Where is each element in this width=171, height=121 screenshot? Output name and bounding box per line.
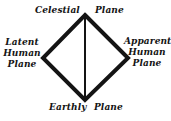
label-apparent-line-3: Plane [124,58,170,69]
label-apparent-line-2: Human [124,47,170,58]
diagram-canvas: Celestial Plane Latent Human Plane Appar… [0,0,171,121]
label-latent-human-plane: Latent Human Plane [1,37,43,70]
label-earthly: Earthly [49,102,86,113]
label-earthly-plane-word: Plane [94,102,123,113]
label-apparent-human-plane: Apparent Human Plane [124,36,170,69]
label-celestial: Celestial [35,5,80,16]
label-latent-line-2: Human [1,48,43,59]
label-apparent-line-1: Apparent [124,36,170,47]
label-celestial-plane-word: Plane [95,5,124,16]
label-latent-line-3: Plane [1,59,43,70]
label-latent-line-1: Latent [1,37,43,48]
